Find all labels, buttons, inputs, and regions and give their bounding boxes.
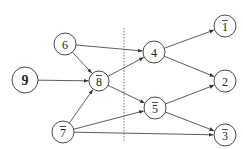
edge-6-to-4 xyxy=(76,45,143,51)
edge-8-to-5 xyxy=(108,85,145,103)
node-6: 6 xyxy=(54,33,76,55)
node-5: 5 xyxy=(144,97,166,119)
edge-7-to-5 xyxy=(74,111,144,129)
edge-9-to-8 xyxy=(38,80,89,81)
node-label: 3 xyxy=(222,129,228,143)
node-1: 1 xyxy=(214,15,236,37)
node-8: 8 xyxy=(89,71,109,91)
node-label: 8 xyxy=(96,75,102,89)
edge-8-to-4 xyxy=(108,57,144,76)
edge-7-to-3 xyxy=(74,132,214,135)
edge-4-to-1 xyxy=(164,30,214,48)
node-label: 7 xyxy=(60,126,66,140)
node-2: 2 xyxy=(214,70,236,92)
node-3: 3 xyxy=(214,124,236,146)
node-label: 6 xyxy=(62,38,68,52)
node-7: 7 xyxy=(52,121,74,143)
edge-5-to-3 xyxy=(165,112,214,131)
node-9: 9 xyxy=(12,67,38,93)
node-label: 4 xyxy=(151,46,157,60)
edge-4-to-2 xyxy=(164,56,214,76)
node-label: 5 xyxy=(152,102,158,116)
edge-7-to-8 xyxy=(69,90,93,123)
graph-diagram: 698745123 xyxy=(0,0,243,149)
node-label: 9 xyxy=(22,73,29,88)
node-label: 2 xyxy=(222,75,228,89)
node-label: 1 xyxy=(222,20,228,34)
edge-5-to-2 xyxy=(165,85,214,104)
edge-6-to-8 xyxy=(72,52,91,73)
node-4: 4 xyxy=(143,41,165,63)
